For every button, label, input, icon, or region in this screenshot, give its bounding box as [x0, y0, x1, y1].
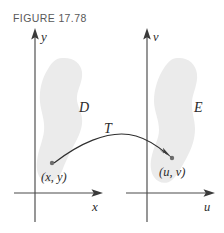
- u-axis-label: u: [204, 200, 210, 214]
- point-xy-label: (x, y): [41, 170, 67, 184]
- x-axis-label: x: [91, 199, 98, 214]
- y-axis-label: y: [39, 29, 47, 44]
- figure-container: FIGURE 17.78 y x D (x, y): [0, 0, 224, 233]
- left-coordinate-plane: y x D (x, y): [14, 28, 103, 222]
- right-coordinate-plane: v u E (u, v): [126, 28, 215, 222]
- v-axis-label: v: [153, 30, 159, 44]
- region-e-label: E: [193, 100, 203, 115]
- point-xy-marker: [50, 161, 54, 165]
- region-d-shape: [37, 58, 82, 182]
- transformation-label: T: [104, 121, 113, 136]
- point-uv-label: (u, v): [159, 165, 185, 179]
- transformation-diagram: y x D (x, y) v u E: [0, 0, 224, 233]
- region-d-label: D: [78, 100, 89, 115]
